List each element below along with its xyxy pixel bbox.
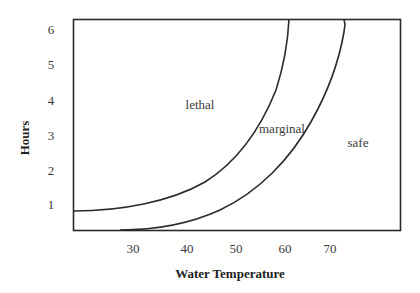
chart-svg: 6 5 4 3 2 1 30 40 50 60 70 Water Tempera… bbox=[0, 0, 420, 293]
y-axis-title: Hours bbox=[17, 121, 32, 156]
y-tick-1: 1 bbox=[48, 197, 55, 212]
x-tick-30: 30 bbox=[127, 241, 140, 256]
y-tick-6: 6 bbox=[48, 22, 55, 37]
y-tick-4: 4 bbox=[48, 93, 55, 108]
region-label-marginal: marginal bbox=[259, 121, 305, 136]
safe-boundary-curve bbox=[120, 20, 345, 230]
lethal-boundary-curve bbox=[74, 19, 289, 211]
region-label-lethal: lethal bbox=[186, 97, 215, 112]
plot-frame bbox=[74, 20, 401, 231]
y-tick-5: 5 bbox=[48, 57, 55, 72]
x-axis-title: Water Temperature bbox=[175, 266, 285, 281]
x-tick-50: 50 bbox=[230, 241, 243, 256]
x-tick-60: 60 bbox=[279, 241, 292, 256]
y-tick-2: 2 bbox=[48, 163, 55, 178]
chart: 6 5 4 3 2 1 30 40 50 60 70 Water Tempera… bbox=[0, 0, 420, 293]
x-tick-70: 70 bbox=[324, 241, 337, 256]
y-tick-3: 3 bbox=[48, 128, 55, 143]
x-tick-40: 40 bbox=[181, 241, 194, 256]
region-label-safe: safe bbox=[348, 135, 369, 150]
